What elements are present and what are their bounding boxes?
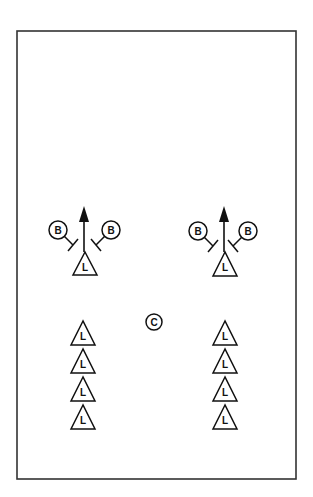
leader-player: L [73, 252, 97, 275]
leader-player: L [213, 252, 237, 276]
drill-groups: BBLBBL [49, 206, 257, 276]
player-label: L [80, 359, 86, 370]
player-label: L [222, 359, 228, 370]
blocker-left: B [189, 222, 207, 240]
player-label: L [80, 387, 86, 398]
drill-group-right: BBL [189, 206, 257, 276]
blocker-left: B [49, 221, 67, 239]
arrowhead-icon [219, 206, 229, 222]
block-stick-line [96, 236, 105, 245]
arrowhead-icon [79, 206, 89, 222]
line-player-1: L [71, 321, 95, 345]
marker-label: B [194, 226, 201, 237]
line-player-1: L [213, 321, 237, 345]
player-label: L [82, 262, 88, 273]
line-player-2: L [213, 349, 237, 373]
left-line: LLLL [71, 321, 95, 429]
coach: C [146, 314, 162, 330]
block-stick-line [64, 236, 73, 245]
right-line: LLLL [213, 321, 237, 429]
player-label: L [222, 415, 228, 426]
marker-label: B [244, 226, 251, 237]
player-label: L [80, 415, 86, 426]
drill-diagram: BBLBBL C LLLLLLLL [0, 0, 313, 497]
line-player-3: L [213, 377, 237, 401]
player-label: L [222, 262, 228, 273]
line-player-3: L [71, 377, 95, 401]
blocker-right: B [239, 222, 257, 240]
drill-group-left: BBL [49, 206, 120, 275]
line-player-4: L [213, 405, 237, 429]
block-stick-line [233, 237, 242, 246]
field-boundary [17, 31, 296, 479]
player-label: L [80, 331, 86, 342]
blocker-right: B [102, 221, 120, 239]
player-lines: LLLLLLLL [71, 321, 237, 429]
line-player-4: L [71, 405, 95, 429]
marker-label: C [150, 317, 157, 328]
block-stick-line [204, 237, 213, 246]
marker-label: B [54, 225, 61, 236]
player-label: L [222, 387, 228, 398]
marker-label: B [107, 225, 114, 236]
line-player-2: L [71, 349, 95, 373]
player-label: L [222, 331, 228, 342]
coach-marker: C [146, 314, 162, 330]
